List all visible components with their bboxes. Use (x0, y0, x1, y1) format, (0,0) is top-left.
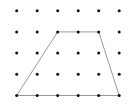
grid-dot (97, 73, 100, 76)
grid-dot (118, 94, 121, 97)
grid-dot (15, 94, 18, 97)
grid-dot (56, 52, 59, 55)
dot-grid-diagram (0, 0, 130, 106)
grid-dot (36, 73, 39, 76)
grid-dot (56, 9, 59, 12)
grid-dot (56, 94, 59, 97)
grid-dot (56, 73, 59, 76)
grid-dot (77, 73, 80, 76)
grid-dot (97, 30, 100, 33)
grid-dot (36, 9, 39, 12)
grid-dot (15, 52, 18, 55)
grid-dot (36, 52, 39, 55)
grid-dot (118, 73, 121, 76)
grid-dot (77, 52, 80, 55)
grid-dot (118, 52, 121, 55)
grid-dot (118, 9, 121, 12)
grid-dot (15, 73, 18, 76)
grid-dot (97, 9, 100, 12)
grid-dot (15, 9, 18, 12)
grid-dot (77, 9, 80, 12)
grid-dot (77, 94, 80, 97)
grid-dot (56, 30, 59, 33)
grid-dot (36, 94, 39, 97)
grid-dot (118, 30, 121, 33)
grid-dot (97, 52, 100, 55)
grid-dot (97, 94, 100, 97)
grid-dot (77, 30, 80, 33)
grid-dot (36, 30, 39, 33)
grid-dot (15, 30, 18, 33)
grid-dots (15, 9, 121, 97)
trapezoid-shape (17, 32, 120, 96)
